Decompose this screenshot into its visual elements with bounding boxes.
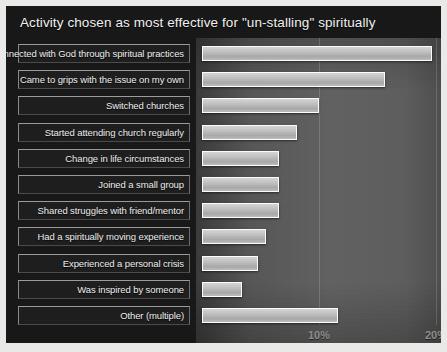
category-label-box: Came to grips with the issue on my own <box>18 70 190 89</box>
bar-row: Joined a small group <box>6 173 441 199</box>
bar <box>202 256 258 271</box>
category-label: Experienced a personal crisis <box>63 258 184 269</box>
bar-row: Experienced a personal crisis <box>6 252 441 278</box>
category-label: Joined a small group <box>98 179 184 190</box>
category-label: Was inspired by someone <box>77 284 184 295</box>
category-label: Started attending church regularly <box>45 127 184 138</box>
bar-rows: Connected with God through spiritual pra… <box>6 38 441 343</box>
category-label: Had a spiritually moving experience <box>38 231 184 242</box>
category-label-box: Shared struggles with friend/mentor <box>18 201 190 220</box>
category-label-box: Started attending church regularly <box>18 123 190 142</box>
category-label: Shared struggles with friend/mentor <box>38 205 184 216</box>
bar-row: Started attending church regularly <box>6 121 441 147</box>
category-label-box: Switched churches <box>18 96 190 115</box>
category-label-box: Other (multiple) <box>18 306 190 325</box>
bar <box>202 177 279 192</box>
bar <box>202 308 338 323</box>
bar <box>202 98 319 113</box>
bar-row: Connected with God through spiritual pra… <box>6 42 441 68</box>
bar <box>202 282 242 297</box>
bar-row: Came to grips with the issue on my own <box>6 68 441 94</box>
bar <box>202 125 297 140</box>
bar <box>202 151 279 166</box>
category-label-box: Change in life circumstances <box>18 149 190 168</box>
bar-row: Shared struggles with friend/mentor <box>6 199 441 225</box>
category-label: Connected with God through spiritual pra… <box>6 48 184 59</box>
bar-row: Other (multiple) <box>6 304 441 330</box>
chart-panel: Activity chosen as most effective for "u… <box>6 6 441 343</box>
bar <box>202 46 432 61</box>
bar <box>202 72 385 87</box>
chart-screenshot: Activity chosen as most effective for "u… <box>0 0 447 352</box>
category-label-box: Connected with God through spiritual pra… <box>18 44 190 63</box>
category-label: Other (multiple) <box>120 310 184 321</box>
category-label: Change in life circumstances <box>65 153 184 164</box>
category-label-box: Experienced a personal crisis <box>18 254 190 273</box>
category-label: Came to grips with the issue on my own <box>20 74 184 85</box>
bar-row: Change in life circumstances <box>6 147 441 173</box>
category-label-box: Had a spiritually moving experience <box>18 227 190 246</box>
chart-title: Activity chosen as most effective for "u… <box>20 15 376 30</box>
bar-row: Had a spiritually moving experience <box>6 225 441 251</box>
category-label: Switched churches <box>106 100 184 111</box>
category-label-box: Joined a small group <box>18 175 190 194</box>
bar-row: Switched churches <box>6 94 441 120</box>
category-label-box: Was inspired by someone <box>18 280 190 299</box>
bar <box>202 229 266 244</box>
bar <box>202 203 279 218</box>
bar-row: Was inspired by someone <box>6 278 441 304</box>
